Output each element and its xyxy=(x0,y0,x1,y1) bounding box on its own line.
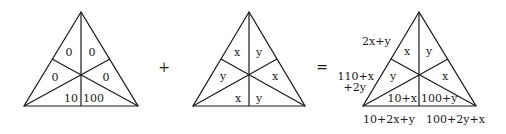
t3-side-sum-bottom-left: 10+2x+y xyxy=(363,113,416,126)
equals-operator: = xyxy=(316,59,328,75)
t1-region-top-left: 0 xyxy=(66,46,73,59)
triangle-1: 0 0 0 0 10 100 xyxy=(24,12,138,106)
t2-region-mid-right: x xyxy=(272,70,279,83)
t3-region-top-left: x xyxy=(404,45,411,58)
t3-side-sum-bottom-right: 100+2y+x xyxy=(426,113,486,126)
t1-region-bottom-left: 10 xyxy=(64,92,78,105)
t3-side-sum-left-lower-line2: +2y xyxy=(344,81,367,94)
t3-region-top-right: y xyxy=(425,45,433,58)
triangle-2: x y y x x y xyxy=(193,12,305,106)
triangle-3: x y y x 10+x 100+y 2x+y 110+x 110+x +2y … xyxy=(338,12,486,126)
triangle-2-median-right xyxy=(221,59,305,106)
t2-region-top-left: x xyxy=(234,46,241,59)
t1-region-bottom-right: 100 xyxy=(83,92,104,105)
t2-region-bottom-right: y xyxy=(255,92,263,105)
t3-region-mid-left: y xyxy=(389,70,397,83)
t3-side-sum-left-upper: 2x+y xyxy=(362,35,391,48)
t1-region-mid-left: 0 xyxy=(52,71,59,84)
t3-region-bottom-left: 10+x xyxy=(388,92,418,105)
t3-region-bottom-right: 100+y xyxy=(421,92,458,105)
t3-region-mid-right: x xyxy=(442,70,449,83)
t1-region-mid-right: 0 xyxy=(103,71,110,84)
t1-region-top-right: 0 xyxy=(89,46,96,59)
plus-operator: + xyxy=(158,59,170,75)
t2-region-bottom-left: x xyxy=(235,92,242,105)
t2-region-mid-left: y xyxy=(219,70,227,83)
triangle-sum-diagram: 0 0 0 0 10 100 + x y y x x y = x y y x 1… xyxy=(0,0,506,134)
t2-region-top-right: y xyxy=(255,46,263,59)
